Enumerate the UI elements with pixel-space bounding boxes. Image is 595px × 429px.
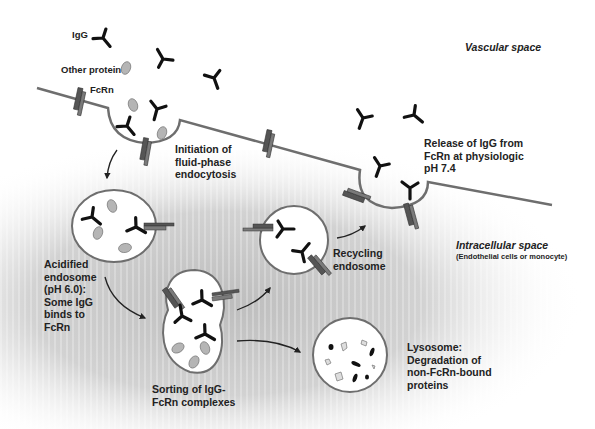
intracellular-space-label: Intracellular space <box>456 239 548 252</box>
igg-legend-icon <box>93 28 116 51</box>
protein-legend-icon <box>120 60 133 75</box>
fcrn-diagram: IgG Other protein FcRn Vascular space In… <box>0 0 595 429</box>
intracellular-note: (Endothelial cells or monocyte) <box>456 252 567 261</box>
igg-icon <box>146 101 166 122</box>
legend-other-protein-label: Other protein <box>61 64 121 77</box>
igg-icon <box>151 45 173 68</box>
lysosome <box>313 318 387 392</box>
vascular-space-label: Vascular space <box>465 41 541 54</box>
protein-icon <box>127 97 140 112</box>
igg-icon <box>352 110 373 131</box>
step-recycling-label: Recycling endosome <box>333 247 386 272</box>
legend-igg-label: IgG <box>72 29 88 42</box>
step-initiation-label: Initiation of fluid-phase endocytosis <box>175 143 236 181</box>
igg-icon <box>204 70 225 91</box>
igg-icon <box>404 105 427 128</box>
step-release-label: Release of IgG from FcRn at physiologic … <box>424 137 524 175</box>
legend-fcrn-label: FcRn <box>90 84 114 97</box>
step-lysosome-label: Lysosome: Degradation of non-FcRn-bound … <box>407 341 492 391</box>
step-sorting-label: Sorting of IgG- FcRn complexes <box>152 383 235 408</box>
step-acidified-label: Acidified endosome (pH 6.0): Some IgG bi… <box>44 258 97 333</box>
